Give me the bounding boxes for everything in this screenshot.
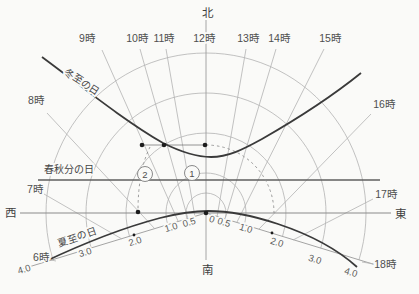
sun-shadow-diagram-figure: 0.51.02.03.04.000.51.02.03.04.06時7時8時9時1… <box>0 0 419 294</box>
scale-ruler-east <box>206 213 376 265</box>
hour-line-14時 <box>225 49 276 219</box>
plot-dot-1 <box>140 143 145 148</box>
sun-shadow-diagram: 0.51.02.03.04.000.51.02.03.04.06時7時8時9時1… <box>0 0 419 294</box>
scale-label-west-0.5: 0.5 <box>181 215 197 229</box>
plot-dot-3 <box>203 143 208 148</box>
hour-line-13時 <box>217 49 246 217</box>
compass-label-east: 東 <box>395 208 407 220</box>
winter-solstice-curve <box>42 57 361 157</box>
hour-label-14時: 14時 <box>268 32 291 44</box>
hour-label-15時: 15時 <box>319 32 342 44</box>
circled-marker-1: 1 <box>189 168 194 179</box>
scale-label-east-3.0: 3.0 <box>307 252 323 266</box>
hour-label-10時: 10時 <box>126 32 149 44</box>
hour-line-9時 <box>102 50 178 221</box>
scale-label-east-4.0: 4.0 <box>343 265 359 279</box>
scale-label-west-4.0: 4.0 <box>16 262 32 276</box>
compass-label-south: 南 <box>202 263 213 276</box>
hour-label-11時: 11時 <box>154 32 176 44</box>
plot-dot-2 <box>162 143 167 148</box>
winter-solstice-label: 冬至の日 <box>62 66 102 98</box>
hour-label-16時: 16時 <box>373 98 396 110</box>
hour-label-12時: 12時 <box>193 32 216 44</box>
hour-label-7時: 7時 <box>27 183 44 195</box>
scale-label-east-1.0: 1.0 <box>238 221 254 235</box>
scale-label-east-2.0: 2.0 <box>269 235 285 249</box>
compass-label-north: 北 <box>202 7 214 19</box>
scale-label-east-0: 0 <box>208 213 216 225</box>
equinox-label: 春秋分の日 <box>44 163 94 175</box>
scale-label-west-2.0: 2.0 <box>127 234 143 248</box>
scale-ruler-west <box>22 213 206 269</box>
plot-dot-5 <box>204 211 209 216</box>
compass-label-west: 西 <box>5 207 16 219</box>
hour-label-18時: 18時 <box>374 258 397 270</box>
scale-label-east-0.5: 0.5 <box>216 215 232 229</box>
circled-marker-2: 2 <box>142 169 147 180</box>
hour-label-17時: 17時 <box>375 188 398 200</box>
dashed-arc-east <box>206 145 274 213</box>
hour-label-6時: 6時 <box>33 251 50 263</box>
hour-label-8時: 8時 <box>28 94 45 106</box>
hour-label-13時: 13時 <box>237 32 260 44</box>
summer-solstice-label: 夏至の日 <box>56 225 97 248</box>
hour-label-9時: 9時 <box>79 32 96 44</box>
plot-dot-4 <box>136 210 141 215</box>
